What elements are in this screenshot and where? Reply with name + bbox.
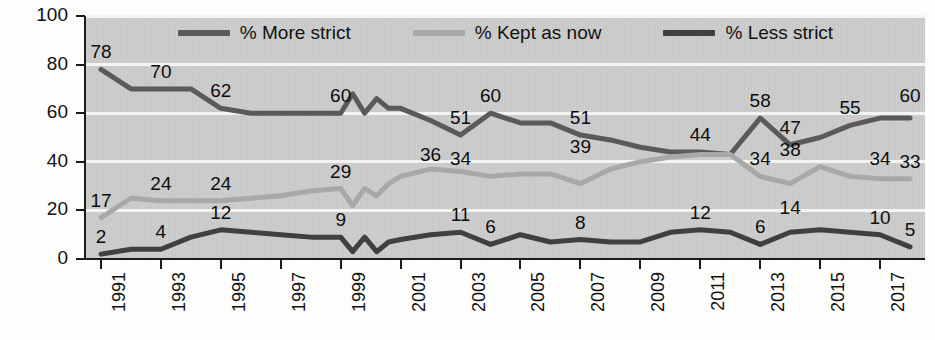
data-point-label: 24 bbox=[150, 173, 171, 195]
legend-item[interactable]: % Kept as now bbox=[413, 22, 602, 44]
x-tick-mark bbox=[879, 260, 881, 269]
data-point-label: 34 bbox=[750, 148, 771, 170]
data-point-label: 34 bbox=[869, 148, 890, 170]
x-axis bbox=[84, 258, 925, 260]
x-tick-mark bbox=[699, 260, 701, 269]
data-point-label: 29 bbox=[330, 161, 351, 183]
x-tick-mark bbox=[579, 260, 581, 269]
data-point-label: 17 bbox=[90, 190, 111, 212]
x-tick-label: 1993 bbox=[169, 272, 190, 312]
y-tick-mark bbox=[76, 258, 85, 260]
chart-title-clipped bbox=[86, 0, 386, 2]
y-tick-label: 0 bbox=[8, 247, 68, 269]
x-tick-label: 2015 bbox=[828, 272, 849, 312]
y-tick-label: 80 bbox=[8, 53, 68, 75]
data-point-label: 9 bbox=[335, 209, 346, 231]
x-tick-label: 1995 bbox=[229, 272, 250, 312]
data-point-label: 33 bbox=[899, 151, 920, 173]
plot-area: 7870626051605144584755601724242936343934… bbox=[86, 16, 925, 259]
y-tick-label: 20 bbox=[8, 198, 68, 220]
x-tick-label: 2013 bbox=[768, 272, 789, 312]
data-point-label: 58 bbox=[750, 90, 771, 112]
x-tick-mark bbox=[639, 260, 641, 269]
data-point-label: 51 bbox=[570, 107, 591, 129]
x-tick-label: 2017 bbox=[888, 272, 909, 312]
data-point-label: 24 bbox=[210, 173, 231, 195]
legend-item[interactable]: % More strict bbox=[178, 22, 351, 44]
data-point-label: 12 bbox=[210, 202, 231, 224]
data-point-label: 44 bbox=[690, 124, 711, 146]
x-tick-mark bbox=[400, 260, 402, 269]
data-point-label: 8 bbox=[575, 212, 586, 234]
x-tick-mark bbox=[100, 260, 102, 269]
y-tick-label: 60 bbox=[8, 101, 68, 123]
y-tick-label: 40 bbox=[8, 150, 68, 172]
x-tick-label: 1997 bbox=[289, 272, 310, 312]
data-point-label: 60 bbox=[899, 85, 920, 107]
data-point-label: 51 bbox=[450, 107, 471, 129]
data-point-label: 47 bbox=[780, 117, 801, 139]
x-tick-mark bbox=[280, 260, 282, 269]
data-point-label: 39 bbox=[570, 136, 591, 158]
data-point-label: 11 bbox=[451, 204, 471, 226]
legend-label: % Kept as now bbox=[475, 22, 602, 44]
data-point-label: 14 bbox=[780, 197, 801, 219]
y-axis bbox=[84, 16, 86, 259]
x-tick-label: 2003 bbox=[469, 272, 490, 312]
x-tick-mark bbox=[160, 260, 162, 269]
x-tick-mark bbox=[220, 260, 222, 269]
x-tick-mark bbox=[340, 260, 342, 269]
x-tick-mark bbox=[460, 260, 462, 269]
data-point-label: 4 bbox=[156, 221, 167, 243]
series-line bbox=[101, 230, 910, 254]
x-tick-mark bbox=[759, 260, 761, 269]
y-tick-mark bbox=[76, 64, 85, 66]
legend-label: % Less strict bbox=[725, 22, 833, 44]
legend-swatch-icon bbox=[663, 30, 715, 36]
data-point-label: 36 bbox=[420, 144, 441, 166]
y-tick-mark bbox=[76, 15, 85, 17]
x-tick-label: 2007 bbox=[588, 272, 609, 312]
legend-label: % More strict bbox=[240, 22, 351, 44]
data-point-label: 12 bbox=[690, 202, 711, 224]
data-point-label: 5 bbox=[905, 219, 916, 241]
data-point-label: 34 bbox=[450, 148, 471, 170]
x-tick-label: 1991 bbox=[109, 272, 130, 312]
data-point-label: 6 bbox=[755, 216, 766, 238]
chart-container: 7870626051605144584755601724242936343934… bbox=[0, 0, 935, 340]
x-tick-label: 1999 bbox=[349, 272, 370, 312]
data-point-label: 10 bbox=[869, 207, 890, 229]
data-point-label: 62 bbox=[210, 80, 231, 102]
x-tick-label: 2009 bbox=[648, 272, 669, 312]
x-tick-label: 2005 bbox=[528, 272, 549, 312]
data-point-label: 60 bbox=[330, 85, 351, 107]
data-point-label: 6 bbox=[485, 216, 496, 238]
legend-swatch-icon bbox=[413, 30, 465, 36]
data-point-label: 38 bbox=[780, 139, 801, 161]
data-point-label: 70 bbox=[150, 61, 171, 83]
x-tick-label: 2011 bbox=[708, 272, 729, 311]
x-tick-mark bbox=[519, 260, 521, 269]
chart-legend: % More strict% Kept as now% Less strict bbox=[86, 16, 925, 50]
y-tick-mark bbox=[76, 161, 85, 163]
data-point-label: 2 bbox=[96, 226, 107, 248]
data-point-label: 60 bbox=[480, 85, 501, 107]
legend-swatch-icon bbox=[178, 30, 230, 36]
y-tick-mark bbox=[76, 112, 85, 114]
data-point-label: 55 bbox=[840, 97, 861, 119]
y-tick-label: 100 bbox=[8, 4, 68, 26]
legend-item[interactable]: % Less strict bbox=[663, 22, 833, 44]
y-tick-mark bbox=[76, 209, 85, 211]
x-tick-label: 2001 bbox=[409, 272, 430, 312]
x-tick-mark bbox=[819, 260, 821, 269]
